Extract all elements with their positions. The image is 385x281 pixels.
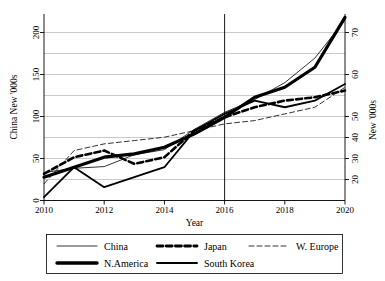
x-axis-title: Year <box>186 218 204 228</box>
right-axis: 70 60 50 40 30 20 New '000s <box>345 14 378 201</box>
x-tick-label-2010: 2010 <box>35 205 54 215</box>
x-tick-label-2020: 2020 <box>336 205 355 215</box>
legend: China Japan W. Europe N.America South Ko… <box>47 235 343 274</box>
left-axis: 200 150 100 50 0 China New '000s <box>9 14 44 203</box>
right-tick-label-20: 20 <box>350 175 360 185</box>
legend-label-japan: Japan <box>204 241 227 252</box>
legend-label-namerica: N.America <box>104 258 149 269</box>
left-tick-label-100: 100 <box>31 109 41 123</box>
x-tick-label-2012: 2012 <box>95 205 113 215</box>
legend-label-southkorea: South Korea <box>204 258 255 269</box>
series-group <box>44 17 345 197</box>
x-tick-label-2018: 2018 <box>276 205 295 215</box>
left-tick-label-0: 0 <box>31 198 41 203</box>
legend-label-weurope: W. Europe <box>296 241 339 252</box>
right-tick-label-30: 30 <box>350 154 360 164</box>
right-tick-label-40: 40 <box>350 133 360 143</box>
right-tick-label-70: 70 <box>350 28 360 38</box>
x-tick-label-2014: 2014 <box>155 205 174 215</box>
left-tick-label-150: 150 <box>31 67 41 81</box>
left-tick-label-200: 200 <box>31 25 41 39</box>
right-axis-title: New '000s <box>368 100 378 140</box>
series-line-china <box>44 20 345 173</box>
right-tick-label-50: 50 <box>350 112 360 122</box>
chart-canvas: 200 150 100 50 0 China New '000s 70 60 5… <box>0 0 385 281</box>
chart-figure: 200 150 100 50 0 China New '000s 70 60 5… <box>0 0 385 281</box>
x-axis: 2010 2012 2014 2016 2018 2020 Year <box>35 201 355 229</box>
left-axis-title: China New '000s <box>9 74 19 139</box>
left-tick-label-50: 50 <box>31 154 41 164</box>
gridlines <box>44 33 345 201</box>
x-tick-label-2016: 2016 <box>216 205 235 215</box>
right-tick-label-60: 60 <box>350 70 360 80</box>
series-line-southkorea <box>44 84 345 197</box>
legend-label-china: China <box>104 241 128 252</box>
